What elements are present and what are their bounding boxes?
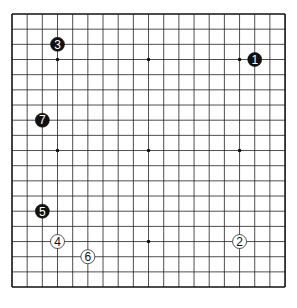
go-board: 1234567 <box>0 0 297 308</box>
star-point <box>56 58 60 62</box>
move-number: 2 <box>236 235 243 249</box>
star-point <box>238 58 242 62</box>
move-number: 5 <box>39 205 46 219</box>
move-number: 4 <box>54 235 61 249</box>
black-stone: 3 <box>51 37 65 51</box>
star-point <box>147 240 151 244</box>
white-stone: 4 <box>51 235 65 249</box>
white-stone: 6 <box>81 250 95 264</box>
move-number: 7 <box>39 113 46 127</box>
star-point <box>147 149 151 153</box>
white-stone: 2 <box>233 235 247 249</box>
move-number: 1 <box>251 53 258 67</box>
star-point <box>238 149 242 153</box>
black-stone: 5 <box>35 204 49 218</box>
move-number: 6 <box>85 250 92 264</box>
move-number: 3 <box>54 38 61 52</box>
star-point <box>147 58 151 62</box>
black-stone: 1 <box>248 53 262 67</box>
black-stone: 7 <box>35 113 49 127</box>
star-point <box>56 149 60 153</box>
